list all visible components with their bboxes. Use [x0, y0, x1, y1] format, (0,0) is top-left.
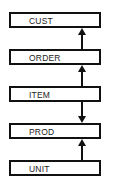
arrow-up-icon — [78, 28, 86, 49]
edges-layer — [0, 0, 114, 191]
arrow-up-icon — [78, 139, 86, 160]
arrow-down-icon — [78, 102, 86, 123]
arrow-up-icon — [78, 65, 86, 86]
